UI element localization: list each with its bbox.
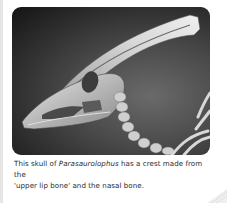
caption-prefix: This skull of <box>14 159 59 168</box>
parasaurolophus-skull-photo <box>12 7 210 155</box>
caption-line2: 'upper lip bone' and the nasal bone. <box>14 181 144 190</box>
caption-species-name: Parasaurolophus <box>59 159 119 168</box>
figure-caption: This skull of Parasaurolophus has a cres… <box>14 158 214 191</box>
page-curl-icon <box>205 187 227 203</box>
page-margin-rule <box>0 0 3 203</box>
skull-illustration <box>12 7 210 155</box>
